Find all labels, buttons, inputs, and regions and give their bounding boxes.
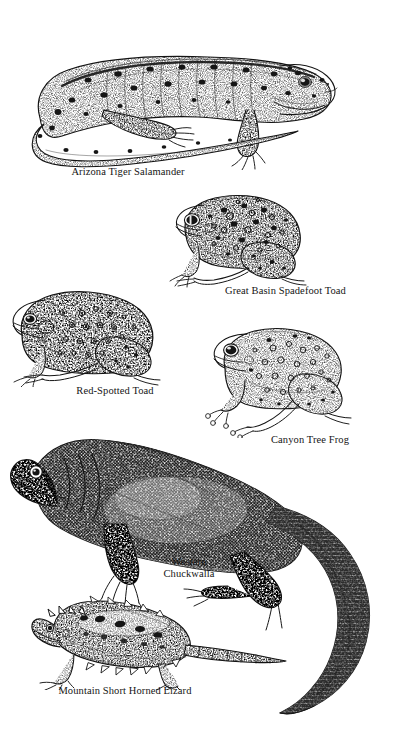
- canyon-tree-frog-drawing: [205, 318, 355, 438]
- caption-western-chuckwalla: Western Chuckwalla: [137, 556, 241, 581]
- figure-arizona-tiger-salamander: [22, 40, 342, 170]
- caption-mountain-short-horned-lizard: Mountain Short Horned Lizard: [0, 685, 250, 697]
- salamander-drawing: [22, 40, 342, 170]
- caption-great-basin-spadefoot-toad: Great Basin Spadefoot Toad: [166, 285, 405, 297]
- illustration-plate: Arizona Tiger Salamander: [0, 0, 405, 748]
- figure-mountain-short-horned-lizard: [28, 585, 288, 690]
- spadefoot-drawing: [168, 180, 318, 288]
- caption-red-spotted-toad: Red-Spotted Toad: [0, 385, 230, 397]
- figure-great-basin-spadefoot-toad: [168, 180, 318, 288]
- figure-red-spotted-toad: [8, 283, 168, 387]
- redspotted-toad-drawing: [8, 283, 168, 387]
- caption-arizona-tiger-salamander: Arizona Tiger Salamander: [0, 166, 256, 178]
- figure-canyon-tree-frog: [205, 318, 355, 438]
- horned-lizard-drawing: [28, 585, 288, 690]
